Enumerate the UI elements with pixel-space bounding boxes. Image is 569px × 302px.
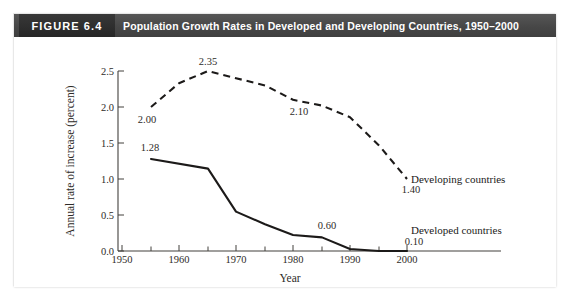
series-line-developed [151, 159, 407, 251]
figure-number-badge: FIGURE 6.4 [19, 14, 115, 37]
y-axis-title: Annual rate of increase (percent) [64, 85, 77, 237]
series-label-developing: Developing countries [411, 173, 505, 185]
x-tick-label: 1980 [283, 254, 304, 265]
data-label: 1.40 [402, 184, 420, 195]
figure-title: Population Growth Rates in Developed and… [123, 14, 519, 37]
figure-root: FIGURE 6.4 Population Growth Rates in De… [0, 0, 569, 302]
data-label: 2.00 [138, 114, 156, 125]
figure-frame: FIGURE 6.4 Population Growth Rates in De… [13, 13, 555, 286]
figure-header-bar: FIGURE 6.4 Population Growth Rates in De… [14, 14, 556, 37]
y-axis-ticks [118, 71, 124, 251]
data-label: 1.28 [141, 142, 159, 153]
x-tick-label: 1950 [112, 254, 133, 265]
x-tick-label: 2000 [397, 254, 418, 265]
data-label: 2.35 [199, 56, 217, 67]
x-tick-label: 1970 [226, 254, 247, 265]
x-axis-title: Year [279, 272, 300, 284]
x-tick-label: 1990 [340, 254, 361, 265]
y-tick-label: 2.5 [101, 66, 114, 77]
x-tick-label: 1960 [169, 254, 190, 265]
data-label: 2.10 [290, 106, 308, 117]
figure-number-label: FIGURE 6.4 [32, 20, 103, 32]
x-axis-tick-labels: 1950 1960 1970 1980 1990 2000 [112, 254, 418, 265]
chart-svg: 0.0 0.5 1.0 1.5 2.0 2.5 [14, 37, 556, 287]
data-label: 0.60 [318, 220, 336, 231]
y-tick-label: 0.5 [101, 210, 114, 221]
data-label: 0.10 [405, 236, 423, 247]
series-line-developing [151, 71, 407, 179]
y-tick-label: 2.0 [101, 102, 114, 113]
y-axis-tick-labels: 0.0 0.5 1.0 1.5 2.0 2.5 [101, 66, 114, 257]
series-label-developed: Developed countries [411, 224, 502, 236]
chart-area: 0.0 0.5 1.0 1.5 2.0 2.5 [14, 37, 556, 287]
y-tick-label: 1.5 [101, 138, 114, 149]
data-labels-developing: 2.00 2.35 2.10 1.40 [138, 56, 420, 195]
y-tick-label: 1.0 [101, 174, 114, 185]
